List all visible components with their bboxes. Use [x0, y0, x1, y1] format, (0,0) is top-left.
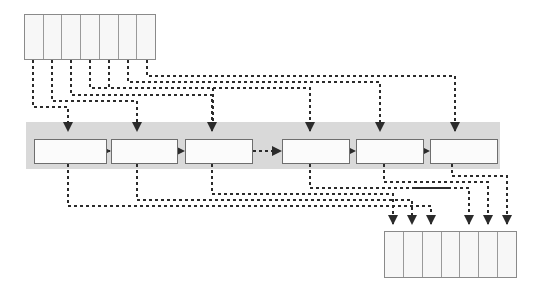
pipeline-stage-3[interactable]: [185, 139, 253, 164]
output-cell[interactable]: [385, 232, 404, 277]
wire-in-1: [33, 60, 68, 131]
wire-in-5: [109, 60, 213, 122]
output-cell[interactable]: [404, 232, 423, 277]
pipeline-stage-6[interactable]: [430, 139, 498, 164]
output-cell[interactable]: [498, 232, 516, 277]
diagram-canvas: [0, 0, 536, 299]
input-cell[interactable]: [62, 15, 81, 59]
wire-out-5: [384, 164, 488, 224]
output-cell[interactable]: [423, 232, 442, 277]
output-register: [384, 231, 517, 278]
wire-in-4: [90, 60, 109, 88]
wire-out-3: [212, 164, 393, 224]
input-cell[interactable]: [119, 15, 138, 59]
input-cell[interactable]: [44, 15, 63, 59]
pipeline-stage-4[interactable]: [282, 139, 350, 164]
input-cell[interactable]: [137, 15, 155, 59]
pipeline-stage-5[interactable]: [356, 139, 424, 164]
wire-in-2: [52, 60, 137, 131]
output-cell[interactable]: [479, 232, 498, 277]
input-cell[interactable]: [81, 15, 100, 59]
input-cell[interactable]: [100, 15, 119, 59]
output-cell[interactable]: [460, 232, 479, 277]
pipeline-stage-2[interactable]: [111, 139, 178, 164]
output-cell[interactable]: [442, 232, 461, 277]
wire-out-6: [452, 164, 507, 224]
wire-in-3: [71, 60, 212, 131]
wire-in-6: [128, 60, 380, 131]
pipeline-stage-1[interactable]: [34, 139, 107, 164]
wire-in-8: [213, 88, 310, 131]
input-cell[interactable]: [25, 15, 44, 59]
input-register: [24, 14, 156, 60]
